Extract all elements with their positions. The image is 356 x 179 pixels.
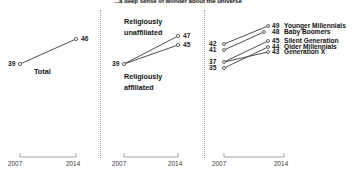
axis-bracket-total — [20, 153, 76, 157]
marker-total-2014 — [74, 37, 77, 40]
marker-religion-2007 — [122, 62, 125, 65]
marker-silent-generation-2007 — [223, 61, 226, 64]
line-younger-millennials — [224, 26, 268, 44]
value-unaffiliated-2014: 47 — [183, 32, 190, 39]
marker-older-millennials-2007 — [223, 67, 226, 70]
marker-baby-boomers-2014 — [263, 31, 266, 34]
xtick-generation-2007: 2007 — [212, 160, 226, 167]
label-affiliated-line1: Religiously — [124, 72, 162, 81]
value-generation-2014-4: 43 — [272, 48, 279, 55]
panel-generation: 42 41 37 35 49 48 45 44 43 Younger Mille… — [204, 0, 356, 179]
value-generation-2007-3: 35 — [209, 64, 216, 71]
legend-item-baby-boomers: Baby Boomers — [284, 28, 331, 35]
line-total — [20, 39, 76, 64]
marker-baby-boomers-2007 — [223, 49, 226, 52]
axis-bracket-religion — [124, 153, 178, 157]
line-older-millennials — [224, 47, 268, 68]
label-affiliated-line2: affiliated — [124, 83, 154, 92]
value-total-2007: 39 — [8, 60, 15, 67]
label-total: Total — [34, 67, 51, 76]
value-generation-2014-1: 48 — [272, 28, 279, 35]
xtick-total-2007: 2007 — [8, 160, 22, 167]
xtick-generation-2014: 2014 — [274, 160, 288, 167]
line-religiously-unaffiliated — [124, 36, 178, 64]
marker-unaffiliated-2014 — [176, 34, 179, 37]
axis-bracket-generation — [224, 153, 284, 157]
panel-total: 39 46 Total 2007 2014 — [0, 0, 100, 179]
line-religiously-affiliated — [124, 45, 178, 64]
value-affiliated-2014: 45 — [183, 41, 190, 48]
marker-younger-millennials-2007 — [223, 43, 226, 46]
marker-generation-x-2014 — [267, 51, 270, 54]
marker-affiliated-2014 — [176, 43, 179, 46]
marker-total-2007 — [18, 62, 21, 65]
label-unaffiliated-line1: Religiously — [124, 17, 162, 26]
line-generation-x — [224, 52, 268, 62]
panel-total-plot — [0, 0, 100, 179]
marker-older-millennials-2014 — [267, 46, 270, 49]
value-religion-2007: 39 — [112, 60, 119, 67]
value-total-2014: 46 — [81, 35, 88, 42]
marker-younger-millennials-2014 — [267, 25, 270, 28]
line-silent-generation — [224, 41, 268, 62]
line-baby-boomers — [224, 32, 264, 50]
xtick-religion-2014: 2014 — [168, 160, 182, 167]
legend-item-generation-x: Generation X — [284, 48, 325, 55]
xtick-religion-2007: 2007 — [112, 160, 126, 167]
label-unaffiliated-line2: unaffiliated — [124, 28, 162, 37]
value-generation-2007-1: 41 — [209, 46, 216, 53]
panel-religion: 39 47 45 Religiously unaffiliated Religi… — [100, 0, 204, 179]
chart-figure: ...a deep sense of wonder about the univ… — [0, 0, 356, 179]
marker-silent-generation-2014 — [267, 40, 270, 43]
xtick-total-2014: 2014 — [66, 160, 80, 167]
